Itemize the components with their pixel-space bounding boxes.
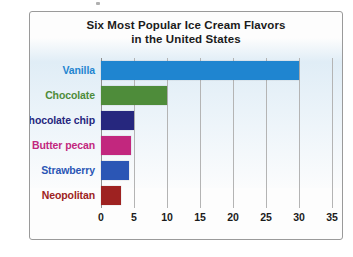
bar [101, 186, 121, 205]
category-label: Butter pecan [32, 133, 95, 158]
chart-container: Six Most Popular Ice Cream Flavors in th… [29, 11, 343, 240]
x-axis-tick-labels: 05101520253035 [30, 211, 343, 229]
plot-area: VanillaChocolateChocolate chipButter pec… [30, 58, 343, 208]
chart-title-line-1: Six Most Popular Ice Cream Flavors [87, 19, 286, 31]
bar [101, 136, 131, 155]
x-tick-label-35: 35 [317, 211, 343, 223]
bar-row: Neopolitan [30, 183, 343, 208]
category-label: Vanilla [62, 58, 95, 83]
x-tick-label-0: 0 [86, 211, 116, 223]
chart-title-line-2: in the United States [30, 32, 342, 46]
x-tick-label-15: 15 [185, 211, 215, 223]
chart-title: Six Most Popular Ice Cream Flavors in th… [30, 18, 342, 46]
bar-row: Strawberry [30, 158, 343, 183]
category-label: Strawberry [41, 158, 95, 183]
x-tick-label-20: 20 [218, 211, 248, 223]
bar-row: Chocolate [30, 83, 343, 108]
bar [101, 111, 134, 130]
bar [101, 161, 129, 180]
category-label: Chocolate chip [29, 108, 95, 133]
x-tick-label-25: 25 [251, 211, 281, 223]
x-tick-label-10: 10 [152, 211, 182, 223]
bar-row: Vanilla [30, 58, 343, 83]
bar-row: Chocolate chip [30, 108, 343, 133]
category-label: Neopolitan [42, 183, 95, 208]
x-tick-label-5: 5 [119, 211, 149, 223]
scan-artifact [96, 2, 100, 5]
bar [101, 86, 167, 105]
bar [101, 61, 299, 80]
category-label: Chocolate [45, 83, 95, 108]
bar-row: Butter pecan [30, 133, 343, 158]
x-tick-label-30: 30 [284, 211, 314, 223]
